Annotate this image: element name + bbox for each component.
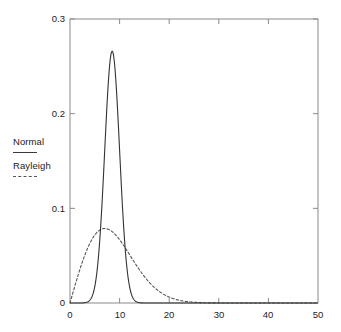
chart-figure: Normal Rayleigh 0.3 0.2 0.1 0 0 10 20 30… bbox=[0, 0, 341, 332]
plot-area bbox=[0, 0, 341, 332]
axis-ticks bbox=[70, 19, 318, 303]
axis-frame bbox=[70, 19, 318, 303]
series-line-normal bbox=[70, 51, 318, 303]
series-line-rayleigh bbox=[70, 229, 318, 304]
